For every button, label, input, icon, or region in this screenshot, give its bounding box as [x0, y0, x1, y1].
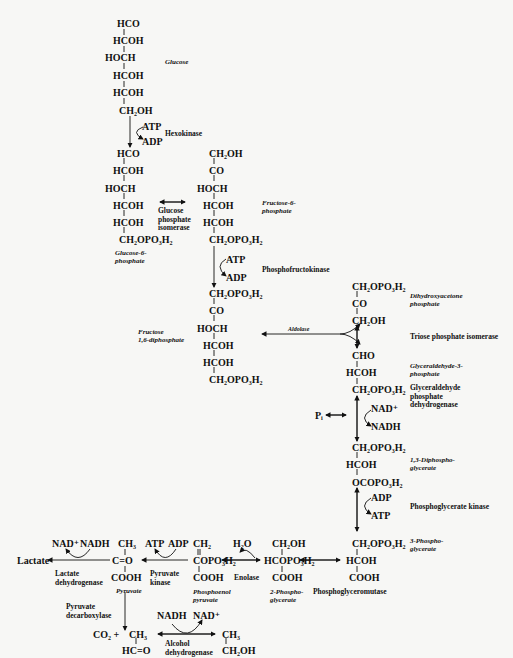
atom: CH₂OH — [352, 315, 386, 326]
nadh-label: NADH — [80, 538, 109, 549]
nadh-label: NADH — [157, 610, 186, 621]
atom: CH₂OH — [209, 148, 243, 159]
enzyme-glucose-phosphate-isomerase: Glucose phosphate isomerase — [158, 207, 191, 233]
3pg-label: 3-Phospho- glycerate — [410, 537, 443, 553]
atom: CH₂ — [193, 538, 211, 549]
atom: HCOH — [113, 87, 144, 98]
2pg-label: 2-Phospho- glycerate — [270, 588, 303, 604]
atom: COOH — [272, 572, 303, 583]
enzyme-gapdh: Glyceraldehyde phosphate dehydrogenase — [410, 384, 460, 410]
atom: CH₂OPO₃H₂ — [209, 374, 262, 385]
atom: HOCH — [105, 52, 136, 63]
enzyme-pyruvate-kinase: Pyruvate kinase — [150, 570, 179, 587]
atom: CH₂OH — [119, 105, 153, 116]
nad-label: NAD⁺ — [52, 538, 79, 549]
atom: HCOH — [346, 459, 377, 470]
nad-in: NAD⁺ — [371, 403, 398, 414]
atom: CH₂OH — [272, 538, 306, 549]
g3p-label: Glyceraldehyde-3- phosphate — [410, 362, 463, 378]
atom: CH₂OPO₃H₂ — [352, 538, 405, 549]
atom: HCOH — [113, 35, 144, 46]
atom: CH₂OH — [222, 645, 256, 656]
atom: CH₂OPO₃H₂ — [209, 288, 262, 299]
atom: HCOH — [113, 165, 144, 176]
atom: COOH — [349, 572, 380, 583]
co2-product: CO₂ + — [93, 629, 119, 640]
glucose-label: Glucose — [165, 58, 188, 66]
atom: HCOH — [203, 200, 234, 211]
atom: CH₂OPO₃H₂ — [352, 281, 405, 292]
atp-in: ATP — [142, 121, 161, 132]
atom: HCO — [117, 148, 140, 159]
g6p-label: Glucose-6- phosphate — [115, 249, 147, 265]
atom: HOCH — [197, 183, 228, 194]
atom: CH₂OPO₃H₂ — [209, 234, 262, 245]
bpg-label: 1,3-Diphospho- glycerate — [410, 456, 455, 472]
atom: HCOH — [203, 340, 234, 351]
atom: OCOPO₃H₂ — [352, 477, 402, 488]
atom: CH₂OPO₃H₂ — [352, 384, 405, 395]
enzyme-aldolase: Aldolase — [288, 325, 309, 334]
adp-out: ADP — [142, 136, 163, 147]
pyruvate-label: Pyruvate — [116, 587, 142, 595]
enzyme-alcohol-dehydrogenase: Alcohol dehydrogenase — [165, 640, 213, 657]
atom: CHO — [352, 350, 375, 361]
atom: HCOH — [346, 367, 377, 378]
atom: HCOH — [346, 555, 377, 566]
enzyme-phosphofructokinase: Phosphofructokinase — [262, 266, 330, 275]
atom: HCOH — [113, 217, 144, 228]
enzyme-lactate-dehydrogenase: Lactate dehydrogenase — [55, 570, 103, 587]
enzyme-phosphoglycerate-kinase: Phosphoglycerate kinase — [410, 503, 489, 512]
atom: HCOH — [113, 70, 144, 81]
pep-label: Phosphoenol pyruvate — [193, 588, 231, 604]
f6p-label: Fructose-6- phosphate — [262, 199, 296, 215]
atom: HC=O — [122, 645, 150, 656]
dhap-label: Dihydroxyacetone phosphate — [410, 292, 463, 308]
enzyme-hexokinase: Hexokinase — [165, 130, 202, 139]
phosphate-pi: Pᵢ — [315, 410, 323, 421]
lactate-product: Lactate — [17, 555, 49, 566]
atom: COOH — [193, 572, 224, 583]
atom: HCOH — [113, 200, 144, 211]
atp-out: ATP — [371, 510, 390, 521]
atom: HOCH — [197, 323, 228, 334]
enzyme-pyruvate-decarboxylase: Pyruvate decarboxylase — [66, 603, 111, 620]
enzyme-triose-phosphate-isomerase: Triose phosphate isomerase — [410, 333, 498, 342]
enzyme-phosphoglyceromutase: Phosphoglyceromutase — [313, 588, 387, 597]
water-out: H₂O — [233, 538, 252, 549]
atom: COOH — [111, 572, 142, 583]
atp-in: ATP — [226, 254, 245, 265]
atom: CH₃ — [222, 629, 240, 640]
atom: CH₂OPO₃H₂ — [352, 442, 405, 453]
atom: CO — [209, 165, 224, 176]
pathway-connectors — [0, 0, 513, 658]
adp-out: ADP — [226, 272, 247, 283]
adp-in: ADP — [371, 492, 392, 503]
atom: CH₂OPO₃H₂ — [119, 234, 172, 245]
enzyme-enolase: Enolase — [234, 574, 259, 583]
nadh-out: NADH — [371, 421, 400, 432]
f16bp-label: Fructose 1,6-diphosphate — [138, 328, 184, 344]
atom: CH₃ — [118, 538, 136, 549]
atom: HCO — [117, 18, 140, 29]
atom: HCOH — [203, 357, 234, 368]
atp-label: ATP — [145, 538, 164, 549]
atom: HOCH — [105, 183, 136, 194]
atom: COPO₃H₂ — [193, 555, 236, 566]
nad-label: NAD⁺ — [193, 610, 220, 621]
atom: CO — [352, 298, 367, 309]
atom: HCOPO₃H₂ — [264, 555, 314, 566]
atom: C=O — [112, 555, 133, 566]
atom: CH₃ — [129, 629, 147, 640]
atom: HCOH — [203, 217, 234, 228]
atom: CO — [209, 305, 224, 316]
adp-label: ADP — [168, 538, 189, 549]
